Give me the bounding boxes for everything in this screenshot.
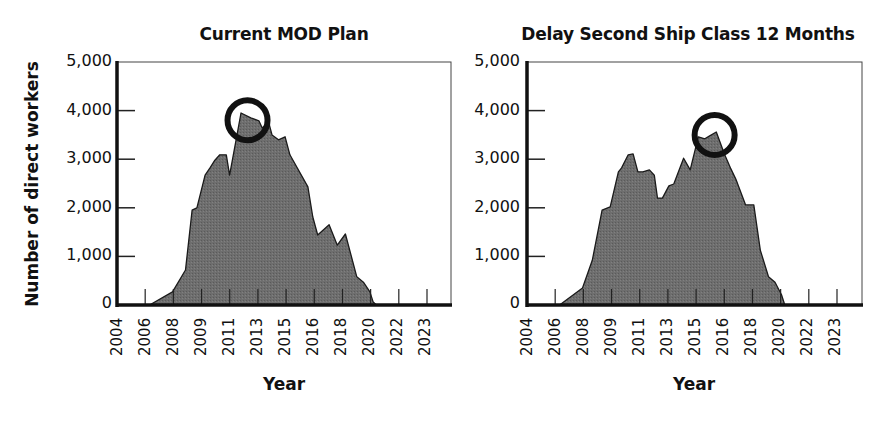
- plot-canvas: [0, 0, 889, 421]
- area-plot-current-plan: [116, 61, 452, 307]
- area-plot-delay-second-ship: [526, 61, 863, 307]
